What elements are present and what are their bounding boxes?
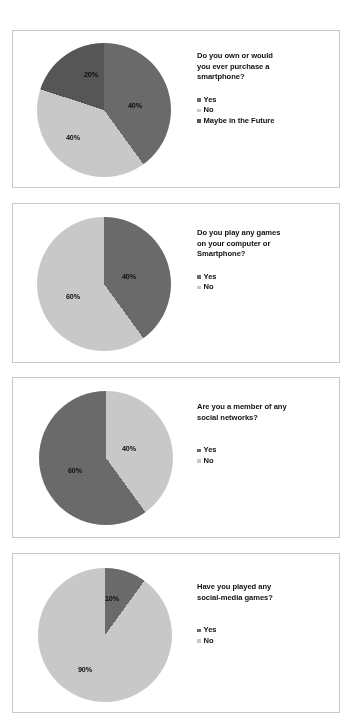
legend-item-yes: Yes [197,272,337,282]
panel-text-block: Do you own or would you ever purchase a … [197,51,337,126]
question-line: Do you play any games [197,228,280,237]
survey-report-page: 40% 40% 20% Do you own or would you ever… [0,0,356,725]
chart-legend: Yes No [197,272,337,293]
question-text: Do you own or would you ever purchase a … [197,51,337,83]
legend-label: No [204,456,214,466]
legend-item-yes: Yes [197,445,340,455]
panel-text-block: Do you play any games on your computer o… [197,228,337,293]
legend-label: Yes [204,625,217,635]
slice-label-yes: 40% [128,101,142,110]
chart-legend: Yes No Maybe in the Future [197,95,337,126]
legend-item-no: No [197,282,337,292]
question-line: social-media games? [197,593,273,602]
slice-label-yes: 60% [68,466,82,475]
legend-item-no: No [197,105,337,115]
legend-item-no: No [197,456,340,466]
slice-label-no: 90% [78,665,92,674]
legend-swatch-icon [197,639,201,643]
legend-swatch-icon [197,119,201,123]
legend-item-maybe: Maybe in the Future [197,116,337,126]
panel-text-block: Are you a member of any social networks?… [197,402,340,466]
legend-label: Yes [204,445,217,455]
legend-label: No [204,282,214,292]
legend-item-no: No [197,636,340,646]
survey-panel-smartphone-ownership: 40% 40% 20% Do you own or would you ever… [12,30,340,188]
panel-text-block: Have you played any social-media games? … [197,582,340,646]
slice-label-no: 40% [122,444,136,453]
pie-graphic [37,43,171,177]
legend-label: No [204,105,214,115]
question-line: smartphone? [197,72,245,81]
question-text: Do you play any games on your computer o… [197,228,337,260]
survey-panel-social-media-games: 10% 90% Have you played any social-media… [12,553,340,713]
legend-item-yes: Yes [197,625,340,635]
legend-label: Yes [204,272,217,282]
legend-label: Yes [204,95,217,105]
pie-graphic [39,391,173,525]
legend-swatch-icon [197,459,201,463]
survey-panel-gaming-habits: 40% 60% Do you play any games on your co… [12,203,340,363]
question-line: social networks? [197,413,258,422]
question-line: Do you own or would [197,51,273,60]
pie-graphic [38,568,172,702]
legend-item-yes: Yes [197,95,337,105]
chart-legend: Yes No [197,625,340,646]
survey-panel-social-networks: 60% 40% Are you a member of any social n… [12,377,340,538]
legend-swatch-icon [197,275,201,279]
question-line: you ever purchase a [197,62,270,71]
legend-label: Maybe in the Future [204,116,275,126]
legend-swatch-icon [197,286,201,290]
question-line: Have you played any [197,582,271,591]
question-text: Are you a member of any social networks? [197,402,340,423]
pie-graphic [37,217,171,351]
slice-label-yes: 10% [105,594,119,603]
question-line: Smartphone? [197,249,245,258]
legend-swatch-icon [197,98,201,102]
slice-label-maybe: 20% [84,70,98,79]
chart-legend: Yes No [197,445,340,466]
legend-swatch-icon [197,629,201,633]
question-line: Are you a member of any [197,402,287,411]
slice-label-no: 40% [66,133,80,142]
legend-swatch-icon [197,109,201,113]
slice-label-yes: 40% [122,272,136,281]
legend-label: No [204,636,214,646]
slice-label-no: 60% [66,292,80,301]
legend-swatch-icon [197,449,201,453]
question-line: on your computer or [197,239,270,248]
question-text: Have you played any social-media games? [197,582,340,603]
